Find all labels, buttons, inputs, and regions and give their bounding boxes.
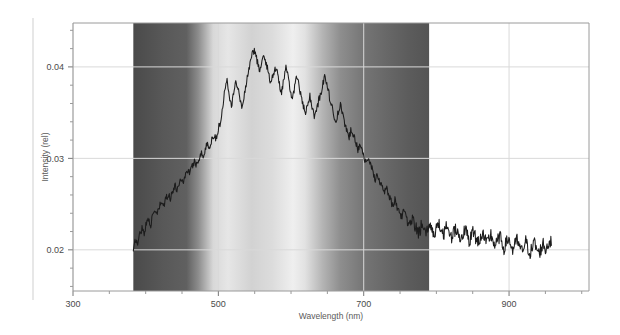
spectrum-figure: 0.020.030.04 300500700900 Wavelength (nm… <box>0 0 620 335</box>
x-tick-label: 900 <box>502 299 517 309</box>
x-tick-label: 700 <box>356 299 371 309</box>
y-axis-title: Intensity (rel) <box>40 132 50 181</box>
x-axis-ticks <box>73 291 582 296</box>
visible-spectrum-band <box>133 23 429 291</box>
y-axis-ticks <box>68 30 73 286</box>
x-tick-label: 500 <box>211 299 226 309</box>
x-tick-labels: 300500700900 <box>65 299 516 309</box>
x-tick-label: 300 <box>65 299 80 309</box>
y-tick-label: 0.04 <box>46 62 64 72</box>
spectrum-chart: 0.020.030.04 300500700900 Wavelength (nm… <box>0 0 620 335</box>
y-tick-label: 0.02 <box>46 245 64 255</box>
x-axis-title: Wavelength (nm) <box>299 311 364 321</box>
